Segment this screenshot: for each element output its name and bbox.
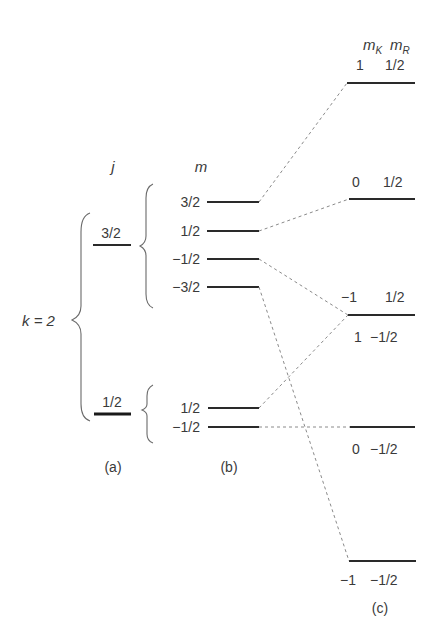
level-c2-mr: 1/2 bbox=[383, 174, 403, 190]
level-c1-mk: 1 bbox=[356, 57, 364, 73]
m-label-1-2: 1/2 bbox=[181, 223, 201, 239]
level-c4-mk: 0 bbox=[352, 441, 360, 457]
k-label: k = 2 bbox=[22, 312, 56, 329]
m-brace-1-2 bbox=[142, 385, 153, 443]
level-c5-mk: −1 bbox=[340, 572, 356, 588]
level-c5-mr: −1/2 bbox=[370, 572, 398, 588]
j-level-label-3-2: 3/2 bbox=[101, 225, 121, 241]
m-label-neg-1-2: −1/2 bbox=[172, 251, 200, 267]
m-label-j12-1-2: 1/2 bbox=[181, 400, 201, 416]
column-c-header-mr: mR bbox=[390, 36, 410, 56]
level-c3-mk2: 1 bbox=[354, 329, 362, 345]
connection-neg-1-2-to-c3 bbox=[259, 259, 348, 315]
caption-b: (b) bbox=[220, 459, 237, 475]
caption-a: (a) bbox=[104, 459, 121, 475]
k-label-text: k = 2 bbox=[22, 312, 56, 329]
connection-3-2-to-c1 bbox=[259, 83, 347, 202]
column-b-header: m bbox=[195, 158, 208, 175]
connection-1-2-to-c2 bbox=[259, 199, 349, 231]
j-level-label-1-2: 1/2 bbox=[102, 394, 122, 410]
m-label-j12-neg-1-2: −1/2 bbox=[172, 419, 200, 435]
level-c3-mr: 1/2 bbox=[385, 289, 405, 305]
level-c3-mk: −1 bbox=[341, 289, 357, 305]
level-c1-mr: 1/2 bbox=[385, 57, 405, 73]
level-c2-mk: 0 bbox=[352, 174, 360, 190]
column-a-header: j bbox=[109, 158, 115, 175]
m-label-neg-3-2: −3/2 bbox=[172, 279, 200, 295]
m-label-3-2: 3/2 bbox=[181, 194, 201, 210]
m-brace-3-2 bbox=[140, 184, 153, 308]
level-c3-mr2: −1/2 bbox=[370, 329, 398, 345]
energy-level-diagram: k = 2 j 3/2 1/2 (a) m 3/2 1/2 −1/2 −3/2 … bbox=[0, 0, 440, 640]
caption-c: (c) bbox=[372, 600, 388, 616]
level-c4-mr: −1/2 bbox=[370, 441, 398, 457]
k-brace bbox=[72, 213, 90, 421]
column-c-header-mk: mK bbox=[363, 36, 384, 56]
